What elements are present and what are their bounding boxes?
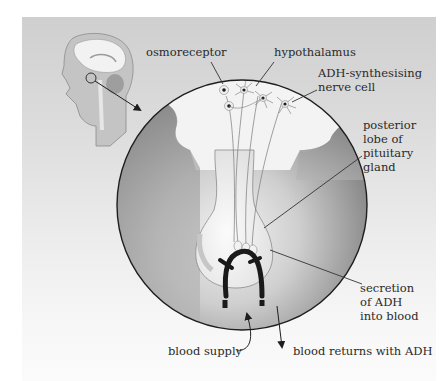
magnified-view <box>110 80 380 330</box>
label-osmoreceptor: osmoreceptor <box>146 45 227 59</box>
head-silhouette <box>62 33 133 146</box>
label-adh-secretion: secretion of ADH into blood <box>360 281 419 323</box>
label-blood-returns: blood returns with ADH <box>293 344 432 358</box>
label-hypothalamus: hypothalamus <box>274 45 356 59</box>
label-blood-supply: blood supply <box>168 344 242 358</box>
label-adh-nerve-cell: ADH-synthesising nerve cell <box>318 66 422 94</box>
label-posterior-pituitary: posterior lobe of pituitary gland <box>363 118 416 174</box>
